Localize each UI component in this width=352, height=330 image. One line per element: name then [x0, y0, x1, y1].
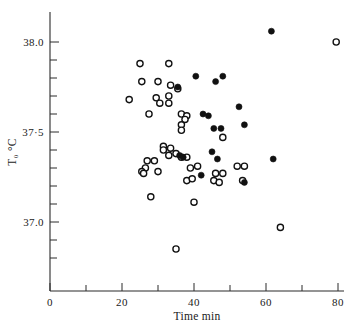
data-point-filled — [236, 104, 242, 110]
chart-canvas: 37.037·538.0 020406080 Time min T₀ °C — [0, 0, 352, 330]
data-point-filled — [175, 84, 181, 90]
data-point-open — [166, 61, 172, 67]
data-point-open — [220, 134, 226, 140]
x-axis-ticks — [50, 283, 338, 291]
data-point-filled — [241, 122, 247, 128]
data-point-open — [234, 163, 240, 169]
data-point-open — [144, 158, 150, 164]
data-point-open — [220, 170, 226, 176]
data-point-open — [157, 100, 163, 106]
data-point-filled — [211, 125, 217, 131]
data-point-open — [126, 97, 132, 103]
y-tick-label: 37.0 — [23, 216, 44, 228]
data-point-open — [333, 39, 339, 45]
x-tick-label: 20 — [116, 296, 128, 308]
data-point-open — [277, 224, 283, 230]
y-axis-title: T₀ °C — [6, 138, 18, 166]
x-tick-label: 40 — [188, 296, 200, 308]
scatter-chart: 37.037·538.0 020406080 Time min T₀ °C — [0, 0, 352, 330]
data-point-open — [195, 163, 201, 169]
data-point-filled — [198, 172, 204, 178]
data-point-filled — [205, 113, 211, 119]
data-point-open — [187, 165, 193, 171]
data-point-filled — [193, 73, 199, 79]
data-point-filled — [241, 179, 247, 185]
data-point-open — [191, 199, 197, 205]
data-point-open — [166, 152, 172, 158]
x-tick-label: 0 — [47, 296, 53, 308]
data-point-filled — [214, 156, 220, 162]
axes — [50, 12, 344, 291]
y-tick-label: 37·5 — [22, 126, 44, 138]
data-point-filled — [220, 73, 226, 79]
y-tick-label: 38.0 — [23, 36, 44, 48]
data-point-open — [178, 127, 184, 133]
data-point-open — [148, 194, 154, 200]
y-axis-tick-labels: 37.037·538.0 — [22, 36, 44, 228]
data-point-open — [189, 176, 195, 182]
data-point-open — [139, 79, 145, 85]
y-axis-ticks — [50, 42, 59, 258]
data-point-open — [166, 100, 172, 106]
x-tick-label: 80 — [332, 296, 344, 308]
data-point-open — [168, 82, 174, 88]
data-points-filled-circles — [175, 28, 276, 185]
data-point-filled — [180, 154, 186, 160]
data-point-open — [155, 79, 161, 85]
data-point-open — [141, 170, 147, 176]
data-point-open — [146, 111, 152, 117]
data-point-filled — [218, 125, 224, 131]
data-point-open — [151, 158, 157, 164]
data-point-open — [168, 145, 174, 151]
data-point-filled — [209, 149, 215, 155]
data-points-open-circles — [126, 39, 339, 252]
data-point-filled — [213, 79, 219, 85]
data-point-open — [166, 93, 172, 99]
data-point-open — [213, 170, 219, 176]
x-axis-tick-labels: 020406080 — [47, 296, 344, 308]
data-point-open — [173, 246, 179, 252]
data-point-filled — [268, 28, 274, 34]
data-point-open — [216, 179, 222, 185]
data-point-open — [241, 163, 247, 169]
data-point-filled — [270, 156, 276, 162]
data-point-filled — [200, 111, 206, 117]
data-point-open — [160, 147, 166, 153]
x-tick-label: 60 — [260, 296, 272, 308]
data-point-open — [137, 61, 143, 67]
x-axis-title: Time min — [173, 310, 220, 322]
data-point-open — [155, 169, 161, 175]
